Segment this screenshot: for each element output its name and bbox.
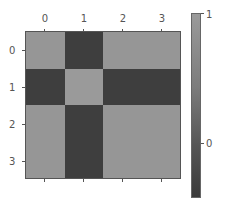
heatmap-cell — [65, 142, 104, 179]
heatmap-cell — [26, 32, 65, 69]
y-tick-mark — [22, 124, 25, 125]
x-tick-label: 0 — [42, 13, 48, 24]
x-tick-mark — [122, 29, 123, 32]
heatmap-cell — [65, 69, 104, 106]
heatmap-cell — [142, 142, 181, 179]
heatmap-cell — [142, 105, 181, 142]
heatmap-cell — [103, 142, 142, 179]
heatmap-cell — [103, 105, 142, 142]
x-tick-mark — [44, 29, 45, 32]
x-tick-label: 3 — [159, 13, 165, 24]
heatmap-cell — [65, 105, 104, 142]
colorbar-tick-mark — [201, 143, 204, 144]
colorbar-tick-label: 0 — [206, 138, 212, 149]
heatmap-cell — [142, 69, 181, 106]
heatmap-cell — [26, 142, 65, 179]
heatmap-cell — [26, 105, 65, 142]
x-tick-label: 2 — [120, 13, 126, 24]
x-tick-mark — [83, 29, 84, 32]
heatmap-cell — [103, 32, 142, 69]
x-tick-mark — [83, 179, 84, 182]
heatmap-cell — [142, 32, 181, 69]
y-tick-mark — [22, 87, 25, 88]
y-tick-label: 2 — [9, 119, 15, 130]
y-tick-label: 0 — [9, 45, 15, 56]
x-tick-mark — [44, 179, 45, 182]
x-tick-mark — [161, 179, 162, 182]
heatmap-cell — [65, 32, 104, 69]
colorbar-tick-label: 1 — [206, 9, 212, 20]
colorbar-tick-mark — [201, 13, 204, 14]
x-tick-mark — [122, 179, 123, 182]
heatmap-cell — [26, 69, 65, 106]
y-tick-mark — [22, 50, 25, 51]
heatmap-grid — [25, 31, 181, 179]
y-tick-label: 3 — [9, 156, 15, 167]
x-tick-mark — [161, 29, 162, 32]
y-tick-label: 1 — [9, 82, 15, 93]
heatmap-cell — [103, 69, 142, 106]
y-tick-mark — [22, 161, 25, 162]
colorbar — [191, 13, 201, 198]
x-tick-label: 1 — [81, 13, 87, 24]
